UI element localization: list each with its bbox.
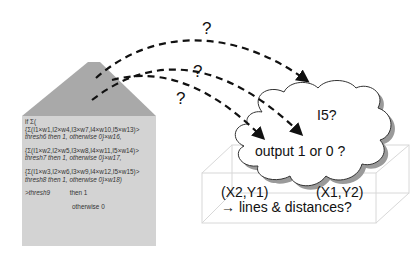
dashed-arrows [0,0,419,254]
diagram-canvas: if Σ( {Σ(I1×w1,I2×w4,I3×w7,I4×w10,I5×w13… [0,0,419,254]
question-mark: ? [176,90,185,107]
lines-distances-label: → lines & distances? [221,200,352,214]
coord-label-right: (X1,Y2) [316,185,363,199]
cloud-label-input: I5? [317,108,336,122]
arrow-bottom [112,76,262,137]
cloud-label-output: output 1 or 0 ? [255,144,345,158]
coord-label-left: (X2,Y1) [221,185,268,199]
question-mark: ? [202,20,211,37]
question-mark: ? [193,63,202,80]
